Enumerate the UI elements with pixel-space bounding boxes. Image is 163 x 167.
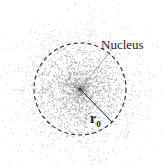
- radius-subscript: 0: [96, 119, 101, 129]
- nucleus-label: Nucleus: [101, 37, 144, 53]
- electron-cloud-diagram: Nucleus r0: [0, 0, 163, 167]
- radius-label: r0: [90, 111, 101, 129]
- electron-cloud-dots: [0, 0, 163, 167]
